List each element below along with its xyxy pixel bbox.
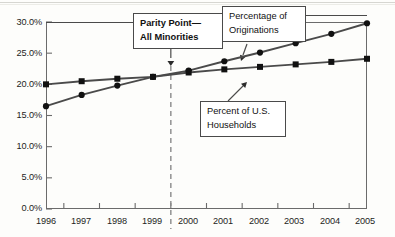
callout-households-line1: Percent of U.S. [207, 105, 279, 119]
chart-page: 30.0% 25.0% 20.0% 15.0% 10.0% 5.0% 0.0% … [0, 0, 395, 237]
callout-percent-of-us-households: Percent of U.S. Households [200, 101, 286, 137]
callout-households-line2: Households [207, 119, 279, 133]
callout-originations-line1: Percentage of [229, 10, 299, 24]
callout-parity-point: Parity Point— All Minorities [133, 13, 223, 49]
callout-percentage-of-originations: Percentage of Originations [222, 6, 306, 42]
callout-parity-point-line2: All Minorities [140, 31, 216, 45]
callout-parity-point-line1: Parity Point— [140, 17, 216, 31]
axis-ticks [46, 22, 349, 209]
callout-originations-line2: Originations [229, 24, 299, 38]
